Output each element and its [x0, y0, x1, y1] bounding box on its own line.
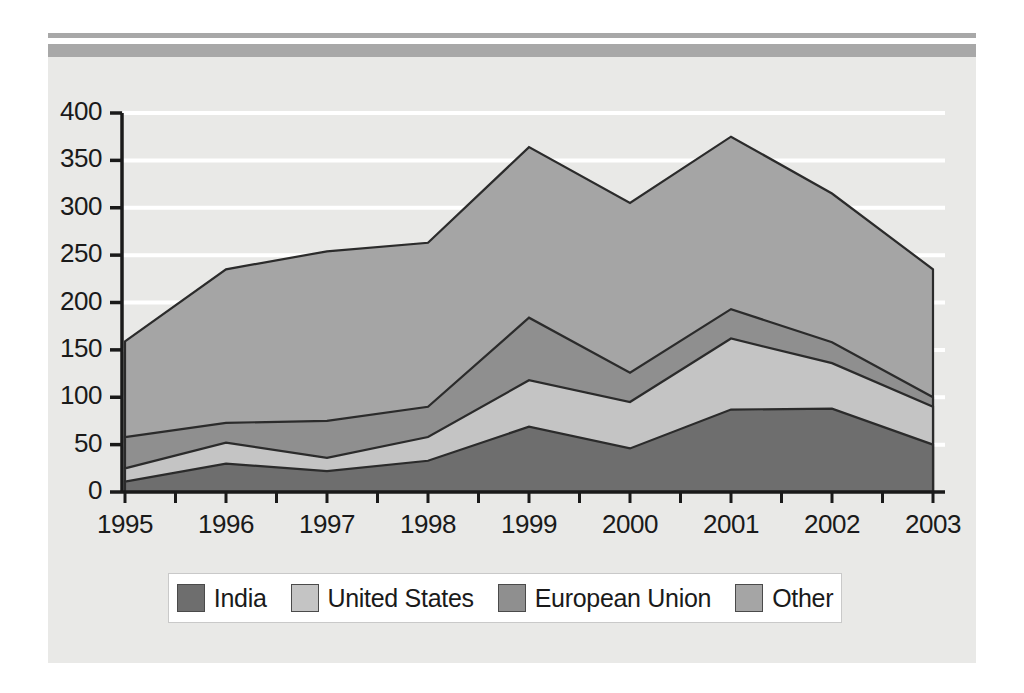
chart-figure: 050100150200250300350400 199519961997199… [0, 0, 1024, 693]
y-tick-label: 250 [30, 238, 102, 269]
legend-label: India [214, 584, 267, 613]
legend-swatch-icon [291, 584, 319, 612]
legend-swatch-icon [498, 584, 526, 612]
legend-swatch-icon [177, 584, 205, 612]
y-axis-ticks [110, 113, 122, 492]
x-tick-label: 2001 [676, 509, 786, 540]
x-tick-label: 2000 [575, 509, 685, 540]
legend-label: United States [328, 584, 474, 613]
x-tick-label: 1999 [474, 509, 584, 540]
y-tick-label: 100 [30, 380, 102, 411]
legend-label: European Union [535, 584, 712, 613]
x-tick-label: 1998 [373, 509, 483, 540]
x-tick-label: 1997 [272, 509, 382, 540]
y-tick-label: 400 [30, 96, 102, 127]
y-tick-label: 200 [30, 286, 102, 317]
legend-swatch-icon [735, 584, 763, 612]
y-tick-label: 150 [30, 333, 102, 364]
x-tick-label: 2002 [777, 509, 887, 540]
legend-item-other[interactable]: Other [735, 584, 833, 613]
legend-label: Other [772, 584, 833, 613]
area-series-group [125, 137, 933, 492]
legend-item-united-states[interactable]: United States [291, 584, 474, 613]
legend-item-european-union[interactable]: European Union [498, 584, 712, 613]
legend-item-india[interactable]: India [177, 584, 267, 613]
y-tick-label: 350 [30, 143, 102, 174]
x-tick-label: 1995 [70, 509, 180, 540]
y-tick-label: 300 [30, 191, 102, 222]
x-tick-label: 1996 [171, 509, 281, 540]
x-tick-label: 2003 [878, 509, 988, 540]
y-tick-label: 0 [30, 475, 102, 506]
y-tick-label: 50 [30, 428, 102, 459]
chart-legend: IndiaUnited StatesEuropean UnionOther [168, 573, 842, 623]
